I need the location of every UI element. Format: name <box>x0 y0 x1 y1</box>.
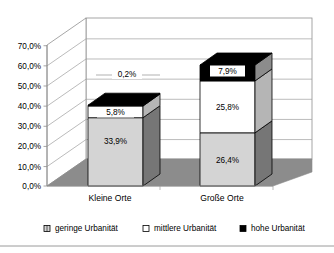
data-label-mittlere: 25,8% <box>216 103 239 112</box>
y-tick-label: 30,0% <box>18 122 41 131</box>
y-tick-label: 60,0% <box>18 62 41 71</box>
chart-legend: geringe Urbanität mittlere Urbanität hoh… <box>44 224 305 233</box>
bar-segment-geringe-front[interactable] <box>88 118 143 186</box>
stacked-column-chart-3d: 70,0% 60,0% 50,0% 40,0% 30,0% 20,0% 10,0… <box>0 0 334 253</box>
x-category-label-grosse-orte: Große Orte <box>200 193 244 203</box>
legend-item-geringe[interactable]: geringe Urbanität <box>44 224 119 233</box>
y-axis-ticks <box>44 46 48 186</box>
legend-swatch-mittlere-icon <box>143 226 149 232</box>
data-label-geringe: 26,4% <box>216 156 239 165</box>
legend-label-mittlere: mittlere Urbanität <box>154 224 217 233</box>
legend-label-hohe: hohe Urbanität <box>251 224 305 233</box>
data-label-hohe: 7,9% <box>218 67 237 76</box>
legend-label-geringe: geringe Urbanität <box>55 224 119 233</box>
y-axis-tick-labels: 70,0% 60,0% 50,0% 40,0% 30,0% 20,0% 10,0… <box>18 42 41 191</box>
x-axis-ticks <box>160 186 273 190</box>
x-category-label-kleine-orte: Kleine Orte <box>89 193 132 203</box>
y-tick-label: 0,0% <box>22 182 41 191</box>
y-tick-label: 20,0% <box>18 142 41 151</box>
y-tick-label: 50,0% <box>18 82 41 91</box>
data-label-mittlere: 5,8% <box>106 108 125 117</box>
y-tick-label: 10,0% <box>18 163 41 172</box>
legend-item-mittlere[interactable]: mittlere Urbanität <box>143 224 217 233</box>
bar-group-kleine-orte[interactable]: 33,9% 5,8% <box>88 93 160 186</box>
y-tick-label: 70,0% <box>18 42 41 51</box>
legend-item-hohe[interactable]: hohe Urbanität <box>240 224 305 233</box>
data-label-hohe-kleine: 0,2% <box>118 70 137 79</box>
data-label-geringe: 33,9% <box>104 137 127 146</box>
bar-group-grosse-orte[interactable]: 26,4% 25,8% 7,9% <box>200 53 272 186</box>
bar-segment-geringe-side <box>143 106 160 186</box>
chart-container: 70,0% 60,0% 50,0% 40,0% 30,0% 20,0% 10,0… <box>0 0 334 253</box>
y-tick-label: 40,0% <box>18 102 41 111</box>
legend-swatch-hohe-icon <box>240 226 246 232</box>
